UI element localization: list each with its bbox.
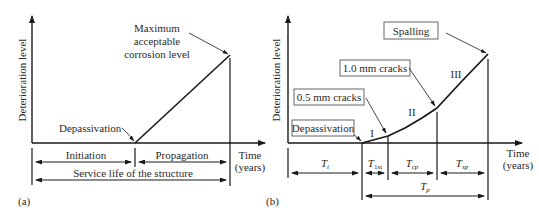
svg-text:0.5 mm cracks: 0.5 mm cracks [297,91,361,103]
svg-text:Spalling: Spalling [393,25,430,37]
x-axis-label-years: (years) [235,161,266,174]
panel-a-tag: (a) [18,195,31,208]
depassivation-pointer [354,135,361,141]
depassivation-pointer-arrow [122,128,134,141]
svg-text:Depassivation: Depassivation [292,122,355,134]
x-axis-label-time: Time [239,149,262,161]
crack-1-0-box: 1.0 mm cracks [340,60,410,76]
x-axis-label-time: Time [507,147,530,159]
phase-initiation-label: Initiation [66,149,107,161]
crack-0-5-box: 0.5 mm cracks [294,89,364,105]
annotation-max-1: Maximum [134,22,180,34]
stage-II-label: II [408,106,416,118]
propagation-curve [135,55,230,143]
t1st-label: T1st [368,157,382,171]
tcp-label: Tcp [406,157,419,171]
annotation-depassivation: Depassivation [59,122,122,134]
panel-b-tag: (b) [266,195,279,208]
depassivation-box: Depassivation [292,120,355,136]
phase-propagation-label: Propagation [155,149,209,161]
service-life-label: Service life of the structure [73,167,193,179]
y-axis-label: Deterioration level [270,39,282,122]
crack-0-5-pointer [366,98,386,133]
y-axis-label: Deterioration level [16,39,28,122]
deterioration-diagram: Deterioration level Maximum acceptable c… [0,0,539,220]
ti-label: Ti [321,157,329,171]
annotation-max-3: corrosion level [124,48,190,60]
crack-1-0-pointer [409,68,435,106]
x-axis-label-years: (years) [503,159,534,172]
tp-label: Tp [420,180,430,194]
tsp-label: Tsp [456,157,469,171]
spalling-box: Spalling [384,22,438,39]
spalling-pointer [446,33,486,53]
stage-III-label: III [451,68,462,80]
panel-b: Deterioration level Spalling 1.0 mm crac… [266,16,534,208]
panel-a: Deterioration level Maximum acceptable c… [16,16,266,208]
max-pointer-arrow [189,33,228,54]
svg-text:1.0 mm cracks: 1.0 mm cracks [343,62,407,74]
annotation-max-2: acceptable [134,35,181,47]
stage-I-label: I [370,127,374,139]
